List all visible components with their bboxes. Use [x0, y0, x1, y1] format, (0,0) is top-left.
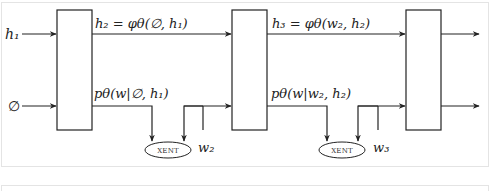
rnn-cell-1	[57, 10, 92, 130]
rnn-cell-3	[406, 10, 441, 130]
w3-to-xent-arrow	[358, 106, 378, 141]
h1-label: h₁	[5, 26, 20, 42]
rnn-unrolled-diagram: XENT XENT h₁ ∅ h₂ = φθ(∅, h₁) pθ(w|∅, h₁…	[0, 0, 491, 191]
w2-label: w₂	[198, 140, 214, 155]
p2-to-xent-arrow	[267, 106, 327, 141]
rnn-cell-2	[232, 10, 267, 130]
empty-set-label: ∅	[8, 98, 20, 114]
p1-to-xent-arrow	[92, 106, 152, 141]
w2-to-xent-arrow	[184, 106, 203, 141]
w3-label: w₃	[373, 140, 389, 155]
h2-equation-label: h₂ = φθ(∅, h₁)	[95, 16, 188, 31]
p1-distribution-label: pθ(w|∅, h₁)	[94, 86, 169, 101]
xent-label-1: XENT	[157, 147, 179, 155]
xent-label-2: XENT	[331, 147, 353, 155]
h3-equation-label: h₃ = φθ(w₂, h₂)	[272, 16, 370, 31]
p2-distribution-label: pθ(w|w₂, h₂)	[271, 86, 351, 101]
